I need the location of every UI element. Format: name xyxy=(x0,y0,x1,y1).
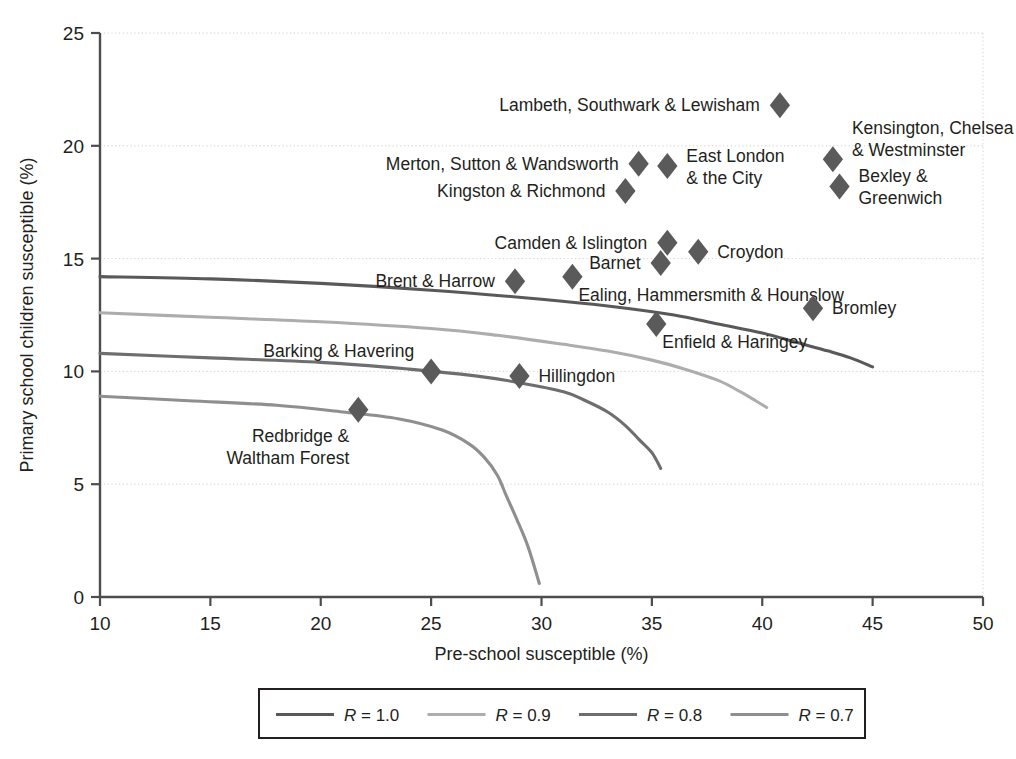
x-tick-label: 10 xyxy=(89,613,110,634)
data-point[interactable] xyxy=(657,153,677,179)
data-point[interactable] xyxy=(348,397,368,423)
data-point-marker[interactable] xyxy=(823,146,843,172)
data-point[interactable] xyxy=(823,146,843,172)
data-point-marker[interactable] xyxy=(688,239,708,265)
x-tick-label: 50 xyxy=(972,613,993,634)
data-point-label-line: Enfield & Haringey xyxy=(662,332,807,352)
data-point-label-line: Croydon xyxy=(717,242,783,262)
legend-label-r: R xyxy=(496,706,508,725)
data-point-label-line: Bromley xyxy=(832,298,896,318)
legend-label-value: = 0.9 xyxy=(508,706,551,725)
data-point-label: Ealing, Hammersmith & Hounslow xyxy=(578,285,844,305)
curve-R07 xyxy=(100,396,539,583)
data-point[interactable] xyxy=(628,151,648,177)
data-point-label-line: Redbridge & xyxy=(252,426,350,446)
data-point[interactable] xyxy=(770,92,790,118)
data-point-marker[interactable] xyxy=(829,173,849,199)
data-point-label: East London& the City xyxy=(686,146,784,188)
legend-label: R = 1.0 xyxy=(344,706,399,725)
data-point[interactable] xyxy=(421,358,441,384)
susceptibility-scatter-chart: 0510152025101520253035404550Pre-school s… xyxy=(0,0,1016,759)
y-tick-label: 15 xyxy=(63,249,84,270)
data-point-label: Brent & Harrow xyxy=(375,271,495,291)
data-point-label-line: East London xyxy=(686,146,784,166)
data-point-label-line: Bexley & xyxy=(859,166,928,186)
data-point-label-line: Brent & Harrow xyxy=(375,271,495,291)
y-tick-label: 20 xyxy=(63,136,84,157)
data-point-label: Merton, Sutton & Wandsworth xyxy=(386,154,619,174)
data-point-label: Enfield & Haringey xyxy=(662,332,807,352)
data-point-label: Bromley xyxy=(832,298,896,318)
data-point-label: Kingston & Richmond xyxy=(437,181,605,201)
legend-label-value: = 0.7 xyxy=(811,706,854,725)
data-point-label-line: Merton, Sutton & Wandsworth xyxy=(386,154,619,174)
legend-label-value: = 0.8 xyxy=(659,706,702,725)
legend-label-r: R xyxy=(344,706,356,725)
y-tick-label: 5 xyxy=(73,474,84,495)
y-tick-label: 25 xyxy=(63,23,84,44)
data-point-label-line: Barnet xyxy=(589,253,641,273)
legend-label: R = 0.9 xyxy=(496,706,551,725)
data-point-label: Bexley &Greenwich xyxy=(859,166,943,208)
x-axis-title: Pre-school susceptible (%) xyxy=(434,644,648,664)
data-point-marker[interactable] xyxy=(628,151,648,177)
data-point-label: Barnet xyxy=(589,253,641,273)
curves xyxy=(100,277,873,584)
data-point-label-line: Kensington, Chelsea xyxy=(852,118,1014,138)
x-tick-label: 40 xyxy=(752,613,773,634)
data-point-label-line: Hillingdon xyxy=(538,366,615,386)
data-point[interactable] xyxy=(505,268,525,294)
data-point-label: Hillingdon xyxy=(538,366,615,386)
legend-label-value: = 1.0 xyxy=(356,706,399,725)
data-point[interactable] xyxy=(688,239,708,265)
x-tick-label: 20 xyxy=(310,613,331,634)
data-point-label-line: Kingston & Richmond xyxy=(437,181,605,201)
x-tick-label: 45 xyxy=(862,613,883,634)
data-point[interactable] xyxy=(829,173,849,199)
y-axis-title: Primary school children susceptible (%) xyxy=(17,157,37,472)
curve-R09 xyxy=(100,313,767,408)
data-point-label-line: Lambeth, Southwark & Lewisham xyxy=(499,95,760,115)
data-point-marker[interactable] xyxy=(770,92,790,118)
x-tick-label: 35 xyxy=(641,613,662,634)
data-point-label-line: Camden & Islington xyxy=(495,233,648,253)
data-point-label: Camden & Islington xyxy=(495,233,648,253)
legend: R = 1.0R = 0.9R = 0.8R = 0.7 xyxy=(259,689,865,738)
data-point-marker[interactable] xyxy=(348,397,368,423)
data-point-marker[interactable] xyxy=(421,358,441,384)
data-point-marker[interactable] xyxy=(505,268,525,294)
data-point-label-line: Barking & Havering xyxy=(263,341,414,361)
data-point[interactable] xyxy=(615,178,635,204)
x-tick-label: 15 xyxy=(200,613,221,634)
data-point-label-line: Greenwich xyxy=(859,188,943,208)
legend-label: R = 0.7 xyxy=(799,706,854,725)
legend-label-r: R xyxy=(799,706,811,725)
chart-figure: 0510152025101520253035404550Pre-school s… xyxy=(0,0,1016,759)
legend-label: R = 0.8 xyxy=(647,706,702,725)
data-point-label-line: & the City xyxy=(686,168,762,188)
data-point-label-line: Waltham Forest xyxy=(226,448,349,468)
y-tick-label: 0 xyxy=(73,587,84,608)
x-tick-label: 30 xyxy=(531,613,552,634)
data-point-label-line: Ealing, Hammersmith & Hounslow xyxy=(578,285,844,305)
legend-label-r: R xyxy=(647,706,659,725)
data-point-label: Kensington, Chelsea& Westminster xyxy=(852,118,1014,160)
x-tick-label: 25 xyxy=(421,613,442,634)
data-point-label-line: & Westminster xyxy=(852,140,966,160)
data-point-label: Lambeth, Southwark & Lewisham xyxy=(499,95,760,115)
data-point-label: Barking & Havering xyxy=(263,341,414,361)
data-point-marker[interactable] xyxy=(657,153,677,179)
data-point-marker[interactable] xyxy=(615,178,635,204)
data-point-label: Croydon xyxy=(717,242,783,262)
data-point-label: Redbridge &Waltham Forest xyxy=(226,426,349,468)
y-tick-label: 10 xyxy=(63,361,84,382)
